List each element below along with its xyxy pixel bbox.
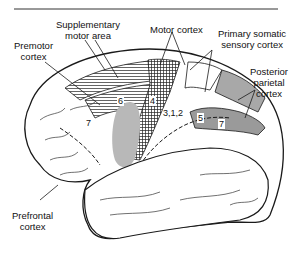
label-prefrontal-cortex: Prefrontal cortex (12, 210, 53, 232)
label-line: Premotor (14, 40, 53, 51)
label-posterior-parietal-cortex: Posterior parietal cortex (250, 66, 288, 99)
area-number-5: 5 (197, 113, 204, 123)
label-line: Posterior (250, 66, 288, 77)
label-line: sensory cortex (218, 39, 286, 50)
label-line: Prefrontal (12, 210, 53, 221)
label-line: motor area (56, 30, 120, 41)
label-line: cortex (14, 51, 53, 62)
label-premotor-cortex: Premotor cortex (14, 40, 53, 62)
label-primary-somatic-sensory-cortex: Primary somatic sensory cortex (218, 28, 286, 50)
label-line: Primary somatic (218, 28, 286, 39)
label-line: parietal (250, 77, 288, 88)
area-number-7: 7 (218, 119, 225, 129)
label-supplementary-motor-area: Supplementary motor area (56, 19, 120, 41)
area-number-4: 4 (149, 96, 156, 106)
label-line: cortex (12, 221, 53, 232)
area-number-6: 6 (117, 96, 124, 106)
label-line: Supplementary (56, 19, 120, 30)
area-number-312: 3,1,2 (162, 108, 184, 118)
area-number-7-frontal: 7 (85, 118, 92, 128)
label-motor-cortex: Motor cortex (150, 24, 203, 35)
label-line: cortex (250, 88, 288, 99)
